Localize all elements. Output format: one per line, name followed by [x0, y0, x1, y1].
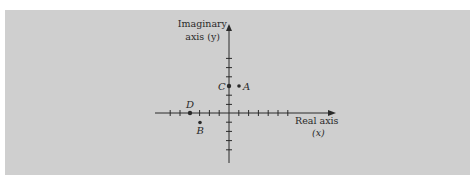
complex-plane-diagram: A B C D Imaginary axis (y) Real axis (x) [0, 0, 473, 184]
point-c [227, 84, 231, 88]
x-axis-label-line2: (x) [312, 127, 325, 138]
point-d [188, 111, 192, 115]
y-axis-label-line1: Imaginary [178, 18, 228, 29]
point-b-label: B [196, 125, 204, 136]
y-axis-label-line2: axis (y) [185, 31, 220, 42]
x-axis-label-line1: Real axis [295, 115, 339, 126]
point-b [198, 121, 202, 125]
point-a [237, 84, 241, 88]
point-c-label: C [218, 81, 226, 92]
point-d-label: D [185, 99, 194, 110]
point-a-label: A [242, 81, 250, 92]
